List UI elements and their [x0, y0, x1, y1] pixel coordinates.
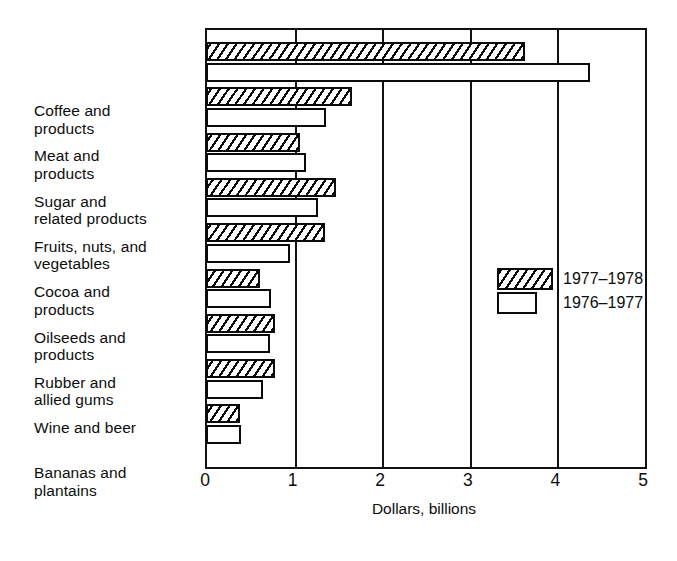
gridline-4	[557, 30, 559, 467]
bar-1976-1977-group-4	[206, 244, 290, 263]
category-label-2: Meat and products	[34, 147, 202, 182]
category-label-column: Coffee and productsMeat and productsSuga…	[0, 0, 196, 520]
legend-label-1: 1976–1977	[563, 292, 643, 313]
chart-legend: 1977–19781976–1977	[497, 268, 657, 320]
category-label-7: Rubber and allied gums	[34, 374, 202, 409]
bar-1977-1978-group-5	[206, 269, 260, 288]
bar-1977-1978-group-6	[206, 314, 275, 333]
bar-1977-1978-group-8	[206, 404, 240, 423]
category-label-3: Sugar and related products	[34, 193, 202, 228]
legend-label-0: 1977–1978	[563, 268, 643, 289]
bar-1976-1977-group-1	[206, 108, 326, 127]
bar-1977-1978-group-4	[206, 223, 325, 242]
legend-swatch-open	[497, 292, 537, 314]
bar-chart-figure: Coffee and productsMeat and productsSuga…	[0, 0, 677, 561]
x-axis-title: Dollars, billions	[205, 500, 643, 518]
x-tick-2: 2	[375, 470, 385, 490]
bar-1976-1977-group-5	[206, 289, 271, 308]
category-label-5: Cocoa and products	[34, 283, 202, 318]
category-label-8: Wine and beer	[34, 419, 202, 437]
bar-1977-1978-group-3	[206, 178, 336, 197]
bar-1976-1977-group-2	[206, 153, 306, 172]
bar-1977-1978-group-2	[206, 133, 300, 152]
bar-1976-1977-group-7	[206, 380, 263, 399]
bar-1976-1977-group-3	[206, 198, 318, 217]
bar-1977-1978-group-0	[206, 42, 525, 61]
bar-1976-1977-group-0	[206, 63, 590, 82]
gridline-2	[382, 30, 384, 467]
x-tick-1: 1	[288, 470, 298, 490]
category-label-1: Coffee and products	[34, 102, 202, 137]
bar-1976-1977-group-8	[206, 425, 241, 444]
legend-swatch-hatched	[497, 268, 553, 290]
x-tick-0: 0	[200, 470, 210, 490]
gridline-3	[470, 30, 472, 467]
category-label-6: Oilseeds and products	[34, 329, 202, 364]
bar-1976-1977-group-6	[206, 334, 270, 353]
x-tick-4: 4	[551, 470, 561, 490]
x-axis-tick-labels: 012345	[0, 470, 677, 494]
x-tick-5: 5	[638, 470, 648, 490]
bar-1977-1978-group-1	[206, 87, 352, 106]
x-tick-3: 3	[463, 470, 473, 490]
category-label-4: Fruits, nuts, and vegetables	[34, 238, 202, 273]
bar-1977-1978-group-7	[206, 359, 275, 378]
plot-area	[205, 28, 647, 469]
